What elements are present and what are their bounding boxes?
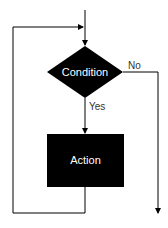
no-label: No (128, 60, 141, 71)
yes-label: Yes (89, 101, 105, 112)
flowchart: Condition No Yes Action (0, 0, 168, 228)
condition-label: Condition (62, 66, 108, 78)
no-edge (123, 72, 158, 213)
action-label: Action (70, 154, 101, 166)
